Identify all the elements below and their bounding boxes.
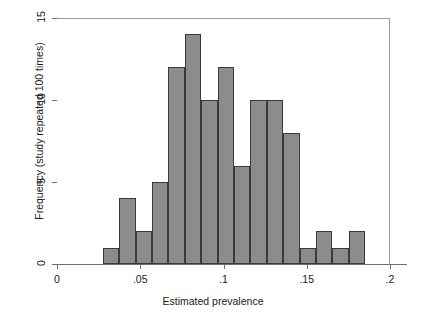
x-axis-title: Estimated prevalence — [0, 295, 426, 307]
histogram-bar — [201, 100, 217, 264]
x-tick-label: .05 — [125, 273, 155, 285]
x-tick-label: 0 — [42, 273, 72, 285]
histogram-bar — [283, 133, 299, 264]
histogram-bar — [349, 231, 365, 264]
histogram-bar — [218, 67, 234, 264]
y-tick-label: 0 — [35, 252, 47, 274]
x-tick-mark — [390, 264, 391, 269]
histogram-bar — [332, 248, 348, 264]
y-tick-label: 5 — [35, 170, 47, 192]
histogram-bar — [103, 248, 119, 264]
x-tick-mark — [224, 264, 225, 269]
histogram-bar — [185, 34, 201, 264]
y-axis-title: Frequency (study repeated 100 times) — [33, 6, 45, 256]
x-tick-mark — [57, 264, 58, 269]
x-axis-line — [57, 264, 407, 265]
histogram-bar — [267, 100, 283, 264]
x-tick-mark — [140, 264, 141, 269]
histogram-bar — [316, 231, 332, 264]
histogram-bars — [57, 18, 390, 264]
histogram-bar — [250, 100, 266, 264]
histogram-bar — [152, 182, 168, 264]
x-tick-label: .1 — [209, 273, 239, 285]
histogram-bar — [234, 166, 250, 264]
x-tick-mark — [307, 264, 308, 269]
chart-canvas: Frequency (study repeated 100 times) 051… — [0, 0, 426, 322]
x-tick-label: .2 — [375, 273, 405, 285]
histogram-bar — [168, 67, 184, 264]
y-tick-label: 15 — [35, 6, 47, 28]
x-tick-label: .15 — [292, 273, 322, 285]
histogram-bar — [300, 248, 316, 264]
histogram-bar — [119, 198, 135, 264]
histogram-bar — [136, 231, 152, 264]
y-tick-label: 10 — [35, 88, 47, 110]
